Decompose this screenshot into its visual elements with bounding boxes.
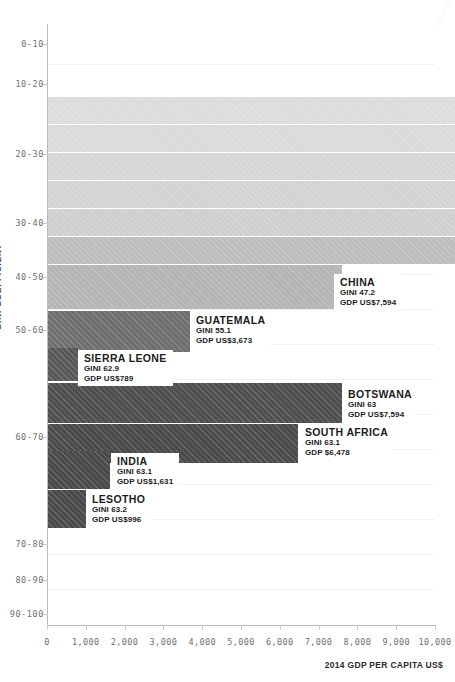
callout-country-name: GUATEMALA: [196, 314, 265, 326]
gridline: [47, 589, 435, 590]
bar-china: [47, 265, 342, 309]
callout-botswana: BOTSWANAGINI 63GDP US$7,594: [342, 386, 418, 422]
callout-gini-value: GINI 47.2: [340, 288, 396, 297]
x-tick: [86, 625, 87, 630]
bar-sierra-leone: [47, 348, 78, 381]
x-tick-label: 6,000: [266, 637, 294, 647]
callout-country-name: LESOTHO: [92, 493, 145, 505]
y-tick-label: 30-40: [0, 218, 44, 228]
x-tick-label: 2,000: [111, 637, 139, 647]
y-tick-label: 10-20: [0, 79, 44, 89]
x-tick: [47, 625, 48, 630]
callout-china: CHINAGINI 47.2GDP US$7,594: [334, 274, 402, 310]
x-tick: [357, 625, 358, 630]
gini-gdp-chart: CHINAGINI 47.2GDP US$7,594GUATEMALAGINI …: [0, 0, 455, 682]
x-tick-label: 1,000: [72, 637, 100, 647]
x-tick-label: 4,000: [188, 637, 216, 647]
x-axis-title: 2014 GDP PER CAPITA US$: [325, 660, 443, 670]
callout-gdp-value: GDP US$7,594: [348, 410, 412, 419]
y-tick-label: 80-90: [0, 575, 44, 585]
callout-gini-value: GINI 63.1: [117, 467, 173, 476]
callout-gdp-value: GDP US$789: [84, 374, 167, 383]
callout-south-africa: SOUTH AFRICAGINI 63.1GDP $6,478: [299, 424, 394, 460]
x-tick: [125, 625, 126, 630]
callout-gini-value: GINI 55.1: [196, 326, 265, 335]
x-tick-label: 9,000: [382, 637, 410, 647]
callout-country-name: BOTSWANA: [348, 388, 412, 400]
x-tick-label: 10,000: [418, 637, 451, 647]
callout-gdp-value: GDP US$3,673: [196, 336, 265, 345]
x-tick-label: 3,000: [150, 637, 178, 647]
x-tick: [241, 625, 242, 630]
callout-gdp-value: GDP $6,478: [305, 448, 388, 457]
callout-country-name: CHINA: [340, 276, 396, 288]
bar-unlabeled: [47, 153, 455, 180]
callout-country-name: SOUTH AFRICA: [305, 426, 388, 438]
callout-gini-value: GINI 63.2: [92, 505, 145, 514]
x-tick-label: 7,000: [305, 637, 333, 647]
bar-unlabeled: [47, 237, 455, 264]
bar-unlabeled: [47, 209, 455, 236]
x-tick-label: 5,000: [227, 637, 255, 647]
callout-gini-value: GINI 63: [348, 400, 412, 409]
corner-flare: [421, 0, 455, 30]
y-axis-line: [47, 24, 48, 625]
y-tick-label: 40-50: [0, 272, 44, 282]
bar-unlabeled: [47, 97, 455, 124]
callout-sierra-leone: SIERRA LEONEGINI 62.9GDP US$789: [78, 350, 173, 386]
x-tick: [280, 625, 281, 630]
y-tick-label: 20-30: [0, 149, 44, 159]
callout-guatemala: GUATEMALAGINI 55.1GDP US$3,673: [190, 312, 271, 348]
x-tick: [435, 625, 436, 630]
x-tick: [202, 625, 203, 630]
bar-unlabeled: [47, 181, 455, 208]
y-tick-label: 50-60: [0, 325, 44, 335]
callout-gdp-value: GDP US$7,594: [340, 298, 396, 307]
y-axis-title: GINI COEFFICIENT: [0, 244, 3, 330]
bar-unlabeled: [47, 125, 455, 152]
y-tick-label: 90-100: [0, 609, 44, 619]
callout-gdp-value: GDP US$1,631: [117, 477, 173, 486]
x-tick-label: 8,000: [344, 637, 372, 647]
bar-botswana: [47, 383, 342, 423]
bar-lesotho: [47, 490, 86, 528]
callout-india: INDIAGINI 63.1GDP US$1,631: [111, 453, 179, 489]
callout-country-name: SIERRA LEONE: [84, 352, 167, 364]
y-tick-label: 60-70: [0, 432, 44, 442]
gridline: [47, 554, 435, 555]
x-tick: [319, 625, 320, 630]
x-tick-label: 0: [44, 637, 50, 647]
bar-guatemala: [47, 311, 190, 352]
x-tick: [163, 625, 164, 630]
gridline: [47, 64, 435, 65]
callout-country-name: INDIA: [117, 455, 173, 467]
y-tick-label: 70-80: [0, 539, 44, 549]
callout-gdp-value: GDP US$996: [92, 515, 145, 524]
callout-gini-value: GINI 62.9: [84, 364, 167, 373]
callout-lesotho: LESOTHOGINI 63.2GDP US$996: [86, 491, 151, 527]
x-tick: [396, 625, 397, 630]
y-tick-label: 0-10: [0, 39, 44, 49]
callout-gini-value: GINI 63.1: [305, 438, 388, 447]
bar-india: [47, 451, 110, 489]
